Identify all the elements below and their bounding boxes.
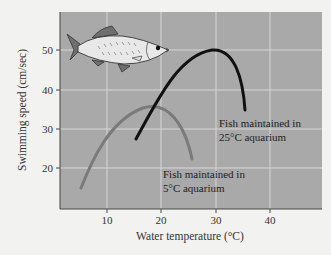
annotation-5c-line2: 5°C aquarium: [163, 182, 225, 194]
y-tick-20: 20: [42, 162, 54, 174]
y-tick-40: 40: [42, 84, 54, 96]
x-axis-title: Water temperature (°C): [136, 230, 244, 243]
y-tick-30: 30: [42, 123, 54, 135]
annotation-25c-line2: 25°C aquarium: [219, 131, 286, 143]
chart: 50 40 30 20 10 20 30 40 Water temperatur…: [0, 0, 331, 255]
y-axis-title: Swimming speed (cm/sec): [16, 49, 29, 171]
x-tick-30: 30: [211, 214, 223, 226]
annotation-25c-line1: Fish maintained in: [219, 117, 301, 129]
annotation-5c-line1: Fish maintained in: [163, 168, 245, 180]
x-tick-20: 20: [156, 214, 168, 226]
y-tick-50: 50: [42, 44, 54, 56]
x-tick-40: 40: [265, 214, 277, 226]
x-tick-10: 10: [102, 214, 114, 226]
